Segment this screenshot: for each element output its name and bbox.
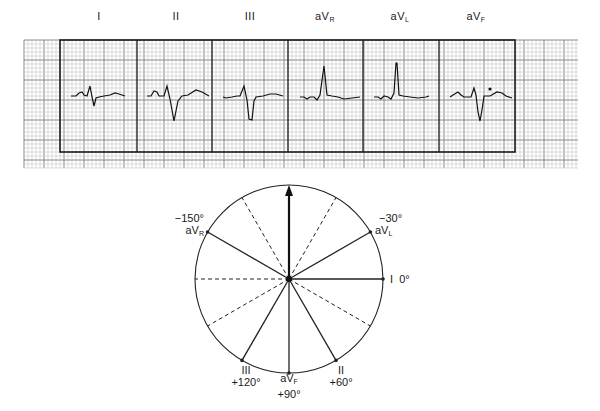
label-i-lead: I <box>390 273 393 285</box>
axis-iii <box>242 279 289 360</box>
negative-axis-dashed <box>289 198 336 279</box>
lead-label-avl: aVL <box>380 10 420 23</box>
label-avf-lead: aVF <box>269 372 309 388</box>
axis-endpoint-dot <box>369 230 373 234</box>
label-avr-lead: aVR <box>158 224 204 240</box>
label-lead-iii: III +120° <box>226 364 266 388</box>
axis-endpoint-dot <box>206 230 210 234</box>
axis-avr <box>208 232 289 279</box>
negative-axis-dashed <box>208 279 289 326</box>
label-avr: −150° aVR <box>158 212 204 240</box>
label-ii-degrees: +60° <box>321 376 361 388</box>
label-iii-degrees: +120° <box>226 376 266 388</box>
label-lead-i: I 0° <box>390 273 410 285</box>
axis-ii <box>289 279 336 360</box>
ecg-grid-paper <box>24 40 578 168</box>
axis-endpoint-dot <box>240 359 244 363</box>
trace-lead-aVL <box>374 63 429 99</box>
figure-canvas <box>0 0 600 411</box>
label-avr-degrees: −150° <box>158 212 204 224</box>
label-lead-ii: II +60° <box>321 364 361 388</box>
trace-lead-aVR <box>300 66 360 100</box>
axis-avl <box>289 232 370 279</box>
arrowhead-icon <box>285 185 293 196</box>
trace-marker-dot <box>488 87 491 90</box>
label-avl-lead: aVL <box>375 224 402 240</box>
label-avf-degrees: +90° <box>269 388 309 400</box>
hexaxial-reference-diagram <box>195 185 385 375</box>
axis-endpoint-dot <box>334 359 338 363</box>
lead-label-ii: II <box>156 10 196 22</box>
label-i-degrees: 0° <box>399 273 410 285</box>
label-ii-lead: II <box>321 364 361 376</box>
axis-endpoint-dot <box>381 277 385 281</box>
negative-axis-dashed <box>242 198 289 279</box>
label-avf: aVF +90° <box>269 372 309 400</box>
lead-label-iii: III <box>230 10 270 22</box>
label-avl-degrees: −30° <box>375 212 402 224</box>
negative-axis-dashed <box>289 279 370 326</box>
lead-label-avf: aVF <box>456 10 496 23</box>
lead-label-avr: aVR <box>305 10 345 23</box>
label-iii-lead: III <box>226 364 266 376</box>
center-point <box>286 276 292 282</box>
ecg-hexaxial-figure: IIIIIIaVRaVLaVF −150° aVR −30° aVL I 0° … <box>0 0 600 411</box>
label-avl: −30° aVL <box>375 212 402 240</box>
lead-label-i: I <box>79 10 119 22</box>
